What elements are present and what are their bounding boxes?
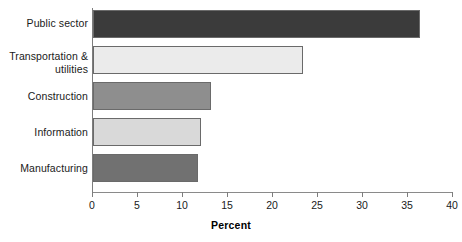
bar-chart: Public sector Transportation & utilities…: [0, 0, 462, 242]
x-tick-label-0: 0: [89, 199, 95, 211]
x-tick-label-20: 20: [266, 199, 278, 211]
category-label-text: Construction: [28, 90, 88, 102]
x-tick-mark: [362, 192, 363, 197]
bar-information: [93, 118, 201, 146]
x-tick-mark: [92, 192, 93, 197]
plot-area: [93, 8, 452, 192]
category-label-manufacturing: Manufacturing: [0, 162, 88, 175]
category-label-information: Information: [0, 126, 88, 139]
category-axis-labels: Public sector Transportation & utilities…: [0, 0, 88, 200]
x-tick-label-15: 15: [221, 199, 233, 211]
x-tick-mark: [407, 192, 408, 197]
x-tick-mark: [137, 192, 138, 197]
category-label-text: Manufacturing: [20, 162, 88, 174]
category-label-text-line2: utilities: [55, 63, 88, 75]
x-axis-title: Percent: [0, 219, 462, 231]
bar-manufacturing: [93, 154, 198, 182]
x-tick-mark: [317, 192, 318, 197]
x-tick-mark: [182, 192, 183, 197]
x-tick-label-5: 5: [134, 199, 140, 211]
x-tick-label-40: 40: [446, 199, 458, 211]
category-label-text-line1: Transportation &: [9, 50, 88, 62]
category-label-public-sector: Public sector: [0, 17, 88, 30]
category-label-text: Information: [34, 126, 88, 138]
x-tick-label-10: 10: [176, 199, 188, 211]
x-tick-mark: [272, 192, 273, 197]
category-label-transportation-utilities: Transportation & utilities: [0, 50, 88, 75]
x-tick-mark: [452, 192, 453, 197]
bar-transportation-utilities: [93, 46, 303, 74]
x-tick-label-35: 35: [401, 199, 413, 211]
bar-public-sector: [93, 10, 420, 38]
x-tick-mark: [227, 192, 228, 197]
category-label-construction: Construction: [0, 90, 88, 103]
x-tick-label-30: 30: [356, 199, 368, 211]
category-label-text: Public sector: [27, 17, 88, 29]
bar-construction: [93, 82, 211, 110]
x-tick-label-25: 25: [311, 199, 323, 211]
